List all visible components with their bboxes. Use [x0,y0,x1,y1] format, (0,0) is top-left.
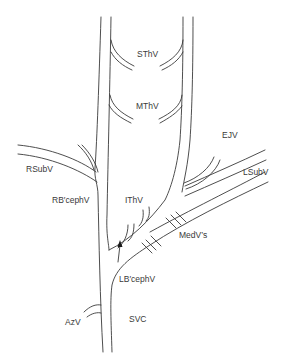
mthv-left-lower [109,105,131,123]
left-trunk-outer [182,17,193,192]
label-rsubv: RSubV [26,165,53,174]
ithv-stub-3 [139,210,143,226]
azv-lower [87,313,101,317]
label-ejv: EJV [222,131,238,140]
ejv-inner [186,160,220,189]
lbcephv-upper-wall [150,172,265,232]
label-ithv: IThV [125,196,143,205]
ejv-outer [184,157,214,183]
label-sthv: SThV [137,50,158,59]
sthv-right-lower [162,52,183,70]
label-svc: SVC [129,315,146,324]
label-medvs: MedV’s [179,231,207,240]
label-mthv: MThV [136,102,159,111]
sthv-left-lower [111,52,132,70]
right-trunk-outer [95,17,103,352]
mthv-right-upper [159,95,182,119]
label-lbcephv: LB′cephV [119,275,155,284]
mthv-left-upper [110,95,133,119]
sthv-right-upper [160,40,183,66]
label-azv: AzV [65,318,81,327]
label-lsubv: LSubV [243,168,269,177]
sthv-left-upper [111,40,134,66]
medv-stub-3 [151,236,161,246]
mthv-right-lower [160,106,182,123]
svc-left-wall [111,182,268,352]
azv-upper [84,305,101,312]
arrow-head-icon [118,240,123,247]
ithv-stub-2 [128,224,134,241]
right-trunk-inner [107,17,111,250]
label-rbcephv: RB′cephV [52,196,90,205]
venous-diagram: SThV MThV EJV RSubV LSubV RB′cephV IThV … [0,0,282,363]
